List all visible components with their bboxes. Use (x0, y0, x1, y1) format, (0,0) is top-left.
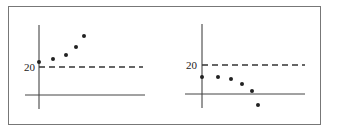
right-data-points (200, 75, 260, 107)
data-point (64, 53, 68, 57)
right-chart: 20 (185, 24, 305, 108)
left-data-points (37, 34, 86, 64)
data-point (200, 75, 204, 79)
left-ref-label: 20 (24, 61, 36, 73)
data-point (216, 75, 220, 79)
data-point (240, 82, 244, 86)
data-point (74, 45, 78, 49)
right-ref-label: 20 (186, 59, 198, 71)
data-point (256, 103, 260, 107)
data-point (250, 89, 254, 93)
data-point (229, 77, 233, 81)
data-point (37, 60, 41, 64)
data-point (82, 34, 86, 38)
data-point (51, 57, 55, 61)
left-chart: 20 (24, 25, 145, 109)
figure: 20 20 (0, 0, 338, 132)
